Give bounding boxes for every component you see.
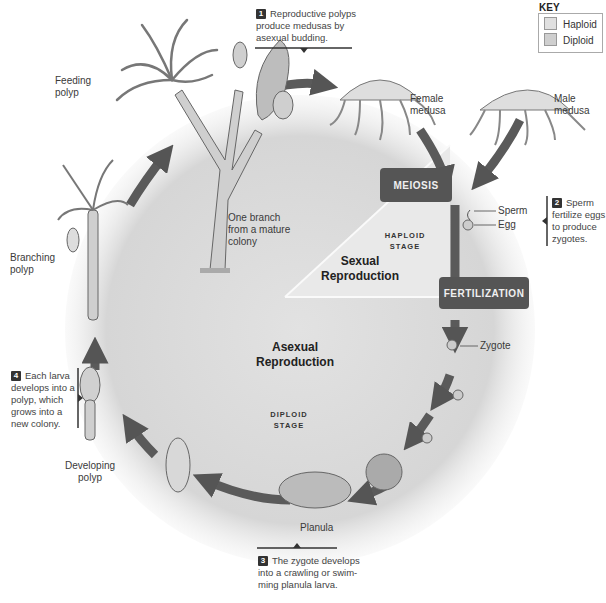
embryo-4cell (422, 433, 432, 443)
meiosis-box: MEIOSIS (380, 168, 452, 202)
zygote-label: Zygote (480, 340, 511, 352)
step-2-caption: 2Sperm fertilize eggs to produce zygotes… (552, 197, 606, 245)
legend-label: Haploid (563, 19, 597, 30)
step-number: 4 (11, 371, 21, 381)
legend-item-diploid: Diploid (544, 33, 597, 49)
step-number: 3 (258, 556, 268, 566)
step-number: 1 (256, 9, 266, 19)
diploid-swatch (544, 33, 557, 46)
zygote-cell (447, 340, 457, 350)
step-number: 2 (552, 198, 562, 208)
branch-label: One branch from a mature colony (228, 212, 293, 248)
planula-illustration (279, 472, 351, 508)
female-medusa-label: Female medusa (410, 93, 455, 117)
legend-box: Haploid Diploid (538, 13, 603, 53)
step-4-caption: 4Each larva develops into a polyp, which… (11, 370, 75, 430)
developing-polyp-label: Developing polyp (60, 460, 120, 484)
male-medusa-label: Male medusa (554, 93, 599, 117)
asexual-reproduction-label: Asexual Reproduction (255, 340, 335, 370)
branching-polyp-label: Branching polyp (10, 252, 60, 276)
legend-label: Diploid (563, 35, 594, 46)
egg-cell (463, 220, 473, 230)
step-3-caption: 3The zygote develops into a crawling or … (258, 555, 370, 591)
planula-label: Planula (300, 522, 333, 534)
haploid-swatch (544, 17, 557, 30)
step-text: Reproductive polyps produce medusas by a… (256, 8, 356, 43)
sexual-reproduction-label: Sexual Reproduction (320, 254, 400, 284)
legend-title: KEY (539, 2, 603, 13)
legend: KEY Haploid Diploid (538, 2, 603, 53)
feeding-polyp-label: Feeding polyp (55, 75, 100, 99)
fertilization-box: FERTILIZATION (439, 277, 529, 309)
settling-larva-illustration (166, 438, 190, 492)
step-text: The zygote develops into a crawling or s… (258, 555, 360, 590)
egg-label: Egg (498, 219, 516, 231)
stage-line: STAGE (264, 420, 314, 431)
legend-item-haploid: Haploid (544, 17, 597, 33)
feeding-polyp-tentacles (117, 20, 217, 100)
stage-line: HAPLOID (380, 230, 430, 241)
embryo-2cell (453, 390, 463, 400)
haploid-stage-label: HAPLOIDSTAGE (380, 230, 430, 252)
stage-line: STAGE (380, 241, 430, 252)
diploid-stage-label: DIPLOIDSTAGE (264, 409, 314, 431)
step-1-caption: 1Reproductive polyps produce medusas by … (256, 8, 366, 44)
sperm-label: Sperm (498, 205, 527, 217)
blastula-illustration (366, 454, 402, 490)
stage-line: DIPLOID (264, 409, 314, 420)
